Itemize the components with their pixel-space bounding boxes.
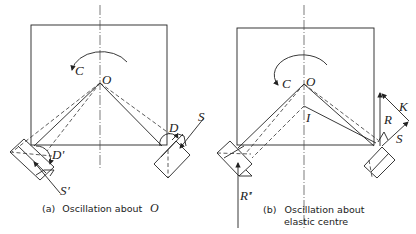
label-S: S (396, 131, 403, 146)
label-S-prime: S (60, 183, 67, 198)
arm-right-displaced (100, 83, 170, 134)
label-K: K (398, 99, 409, 114)
arm-left (34, 83, 100, 146)
arm-left-displaced-2 (12, 83, 100, 152)
label-C: C (282, 76, 291, 91)
left-block (217, 141, 252, 228)
caption-b-line1: (b) Oscillation about (263, 204, 365, 215)
label-O: O (102, 72, 112, 87)
label-S: S (198, 109, 205, 124)
label-R: R (383, 112, 392, 127)
caption-a: (a) Oscillation about (42, 203, 143, 214)
prime-mark: ′ (67, 183, 70, 198)
label-D: D (168, 120, 179, 135)
prime-mark: ′ (249, 188, 252, 203)
arm-right-elastic (304, 106, 376, 143)
label-C: C (75, 63, 84, 78)
caption-a-symbol: O (150, 201, 159, 215)
right-block (154, 118, 204, 178)
caption-b-line2: elastic centre (284, 216, 348, 227)
label-I: I (305, 110, 311, 125)
arm-left-displaced (246, 84, 304, 153)
structure-square (31, 25, 167, 145)
rotation-arrow-icon (160, 134, 178, 146)
label-D-prime: D' (51, 147, 64, 162)
arm-left-displaced (47, 83, 100, 151)
arm-left-elastic (252, 106, 304, 158)
arm-right (100, 83, 162, 146)
panel-b: C O I R' ′ R K S (217, 5, 409, 230)
oscillation-diagram: C O D' S ′ D S (0, 0, 416, 234)
panel-a: C O D' S ′ D S (10, 5, 205, 215)
